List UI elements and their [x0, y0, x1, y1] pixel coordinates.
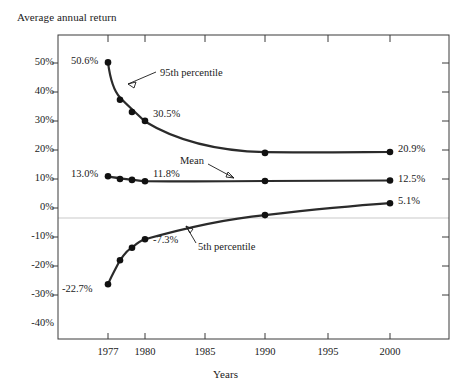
y-axis-ticks-right	[442, 63, 449, 295]
x-axis-ticks-bottom	[108, 333, 390, 339]
series-line-5th-percentile	[108, 203, 390, 284]
annotation-leader-mean	[208, 164, 234, 178]
chart-figure: Average annual return Years 50% 40% 30% …	[0, 0, 473, 391]
x-axis-ticks-top	[108, 35, 390, 42]
annotation-leader-5th-percentile	[186, 226, 196, 243]
chart-canvas	[0, 0, 473, 391]
y-axis-ticks-left	[52, 63, 58, 295]
series-markers-95th-percentile	[105, 59, 394, 156]
annotation-leader-95th-percentile	[128, 72, 156, 88]
series-line-95th-percentile	[108, 62, 390, 152]
series-line-mean	[108, 176, 390, 181]
series-markers-5th-percentile	[105, 200, 394, 288]
plot-frame	[58, 35, 449, 339]
series-markers-mean	[105, 173, 394, 185]
